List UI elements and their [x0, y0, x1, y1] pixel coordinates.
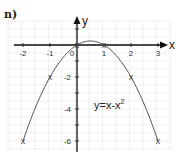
y-axis-arrow-icon [74, 16, 81, 24]
parabola-chart: xxxxxx -2-10123-2-4-6 x y y=x-x2 [0, 0, 181, 157]
x-tick-label: 2 [129, 49, 134, 58]
parabola-curve [23, 41, 158, 141]
tick-labels: -2-10123-2-4-6 [19, 49, 160, 146]
grid [8, 21, 172, 150]
x-tick-label: 3 [156, 49, 161, 58]
curve [23, 41, 158, 141]
data-point-marker: x [156, 136, 161, 146]
x-tick-label: -2 [19, 49, 27, 58]
x-axis-label: x [169, 38, 175, 52]
data-point-marker: x [48, 72, 53, 82]
data-point-marker: x [129, 72, 134, 82]
x-axis-arrow-icon [160, 42, 168, 49]
x-tick-label: 1 [102, 49, 107, 58]
y-tick-label: -2 [64, 73, 72, 82]
x-tick-label: -1 [46, 49, 54, 58]
equation-label: y=x-x2 [94, 98, 125, 111]
axes [14, 16, 168, 152]
y-axis-label: y [82, 14, 88, 28]
y-tick-label: -4 [64, 105, 72, 114]
data-point-marker: x [75, 40, 80, 50]
x-tick-label: 0 [70, 49, 75, 58]
y-tick-label: -6 [64, 137, 72, 146]
data-point-marker: x [21, 136, 26, 146]
